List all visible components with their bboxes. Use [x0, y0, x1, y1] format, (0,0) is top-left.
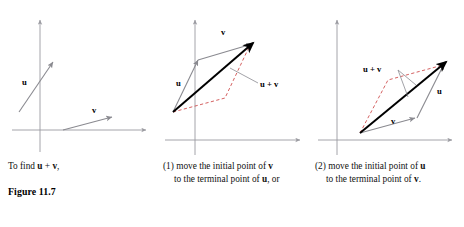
label-u: u [437, 86, 442, 96]
label-v: v [391, 116, 396, 126]
label-u: u [176, 78, 181, 88]
label-v: v [92, 105, 97, 115]
vector-v [63, 117, 112, 130]
panel-move-u-to-v: u + v v u (2) move the initial point of … [309, 0, 464, 227]
caption-panel-3: (2) move the initial point of u to the t… [315, 160, 464, 185]
caption-line-2-wrap: to the terminal point of v. [315, 173, 464, 186]
caption-line-2: to the terminal point of [326, 174, 414, 184]
caption-panel-1: To find u + v, [8, 160, 158, 173]
leader-line-sum [230, 68, 258, 83]
panel-given-vectors: u v To find u + v, Figure 11.7 [0, 0, 155, 227]
caption-line-1-bold: u [420, 161, 425, 171]
caption-line-1-bold: v [268, 161, 273, 171]
caption-line-2-tail: , or [267, 174, 279, 184]
label-u: u [22, 77, 27, 87]
panel-3-graphic: u + v v u [309, 0, 464, 160]
caption-plus: + [42, 161, 52, 171]
axes-panel-1 [12, 20, 146, 152]
panel-2-graphic: u v u + v [155, 0, 310, 160]
caption-line-1: (1) move the initial point of [163, 161, 268, 171]
caption-line-2: to the terminal point of [174, 174, 262, 184]
caption-line-2-wrap: to the terminal point of u, or [163, 173, 313, 186]
label-v: v [221, 27, 226, 37]
caption-line-2-tail: . [419, 174, 421, 184]
figure-11-7: u v To find u + v, Figure 11.7 [0, 0, 464, 227]
caption-panel-2: (1) move the initial point of v to the t… [163, 160, 313, 185]
caption-tail: , [57, 161, 59, 171]
panel-1-graphic: u v [0, 0, 155, 160]
panel-move-v-to-u: u v u + v (1) move the initial point of … [155, 0, 310, 227]
label-u-plus-v: u + v [260, 79, 279, 89]
caption-line-1: (2) move the initial point of [315, 161, 420, 171]
vector-u [19, 62, 53, 112]
caption-text-lead: To find [8, 161, 37, 171]
label-u-plus-v: u + v [363, 64, 382, 74]
figure-label: Figure 11.7 [8, 186, 56, 197]
